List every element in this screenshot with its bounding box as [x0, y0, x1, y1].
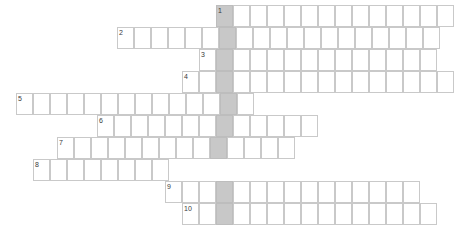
crossword-cell[interactable]	[250, 71, 267, 93]
crossword-cell[interactable]	[253, 27, 270, 49]
crossword-cell[interactable]	[152, 159, 169, 181]
crossword-cell[interactable]	[182, 181, 199, 203]
crossword-cell[interactable]	[91, 137, 108, 159]
crossword-cell[interactable]	[437, 5, 454, 27]
crossword-cell[interactable]	[318, 5, 335, 27]
crossword-cell[interactable]	[352, 181, 369, 203]
crossword-cell[interactable]	[84, 159, 101, 181]
crossword-cell[interactable]	[182, 115, 199, 137]
crossword-cell[interactable]	[108, 137, 125, 159]
crossword-cell[interactable]	[284, 181, 301, 203]
crossword-cell[interactable]	[203, 93, 220, 115]
crossword-cell[interactable]	[335, 71, 352, 93]
crossword-cell[interactable]	[233, 203, 250, 225]
crossword-cell-highlighted[interactable]	[216, 181, 233, 203]
crossword-cell[interactable]	[33, 159, 50, 181]
crossword-cell[interactable]	[267, 115, 284, 137]
crossword-cell[interactable]	[420, 71, 437, 93]
crossword-cell[interactable]	[182, 203, 199, 225]
crossword-cell[interactable]	[352, 203, 369, 225]
crossword-cell[interactable]	[168, 27, 185, 49]
crossword-cell[interactable]	[352, 71, 369, 93]
crossword-cell[interactable]	[301, 5, 318, 27]
crossword-cell[interactable]	[423, 27, 440, 49]
crossword-cell[interactable]	[97, 115, 114, 137]
crossword-cell[interactable]	[261, 137, 278, 159]
crossword-cell[interactable]	[233, 5, 250, 27]
crossword-cell[interactable]	[284, 203, 301, 225]
crossword-cell[interactable]	[114, 115, 131, 137]
crossword-cell[interactable]	[250, 49, 267, 71]
crossword-cell[interactable]	[135, 93, 152, 115]
crossword-cell[interactable]	[67, 159, 84, 181]
crossword-cell-highlighted[interactable]	[216, 5, 233, 27]
crossword-cell[interactable]	[406, 27, 423, 49]
crossword-cell[interactable]	[50, 93, 67, 115]
crossword-cell[interactable]	[152, 93, 169, 115]
crossword-cell-highlighted[interactable]	[216, 115, 233, 137]
crossword-cell[interactable]	[233, 49, 250, 71]
crossword-cell[interactable]	[338, 27, 355, 49]
crossword-cell[interactable]	[386, 5, 403, 27]
crossword-cell[interactable]	[233, 115, 250, 137]
crossword-cell[interactable]	[420, 203, 437, 225]
crossword-cell[interactable]	[67, 93, 84, 115]
crossword-cell[interactable]	[118, 159, 135, 181]
crossword-cell[interactable]	[278, 137, 295, 159]
crossword-cell[interactable]	[318, 181, 335, 203]
crossword-cell[interactable]	[403, 181, 420, 203]
crossword-cell[interactable]	[125, 137, 142, 159]
crossword-cell[interactable]	[135, 159, 152, 181]
crossword-cell[interactable]	[142, 137, 159, 159]
crossword-cell[interactable]	[199, 71, 216, 93]
crossword-cell[interactable]	[131, 115, 148, 137]
crossword-cell-highlighted[interactable]	[220, 93, 237, 115]
crossword-cell[interactable]	[301, 203, 318, 225]
crossword-cell[interactable]	[284, 49, 301, 71]
crossword-cell[interactable]	[301, 181, 318, 203]
crossword-cell[interactable]	[270, 27, 287, 49]
crossword-cell[interactable]	[352, 5, 369, 27]
crossword-cell[interactable]	[148, 115, 165, 137]
crossword-cell[interactable]	[244, 137, 261, 159]
crossword-cell[interactable]	[301, 115, 318, 137]
crossword-cell[interactable]	[165, 115, 182, 137]
crossword-cell[interactable]	[386, 181, 403, 203]
crossword-cell[interactable]	[169, 93, 186, 115]
crossword-cell[interactable]	[403, 49, 420, 71]
crossword-cell[interactable]	[199, 49, 216, 71]
crossword-cell[interactable]	[420, 5, 437, 27]
crossword-cell[interactable]	[74, 137, 91, 159]
crossword-cell[interactable]	[386, 203, 403, 225]
crossword-cell[interactable]	[134, 27, 151, 49]
crossword-cell[interactable]	[267, 71, 284, 93]
crossword-cell[interactable]	[403, 5, 420, 27]
crossword-cell[interactable]	[227, 137, 244, 159]
crossword-cell[interactable]	[321, 27, 338, 49]
crossword-cell[interactable]	[117, 27, 134, 49]
crossword-cell[interactable]	[250, 5, 267, 27]
crossword-cell[interactable]	[335, 49, 352, 71]
crossword-cell[interactable]	[57, 137, 74, 159]
crossword-cell[interactable]	[386, 71, 403, 93]
crossword-cell[interactable]	[50, 159, 67, 181]
crossword-cell[interactable]	[186, 93, 203, 115]
crossword-cell[interactable]	[176, 137, 193, 159]
crossword-cell[interactable]	[199, 203, 216, 225]
crossword-cell-highlighted[interactable]	[210, 137, 227, 159]
crossword-cell[interactable]	[389, 27, 406, 49]
crossword-cell[interactable]	[318, 203, 335, 225]
crossword-cell[interactable]	[185, 27, 202, 49]
crossword-cell[interactable]	[301, 49, 318, 71]
crossword-cell[interactable]	[335, 203, 352, 225]
crossword-cell[interactable]	[301, 71, 318, 93]
crossword-cell[interactable]	[318, 49, 335, 71]
crossword-cell[interactable]	[420, 49, 437, 71]
crossword-cell[interactable]	[287, 27, 304, 49]
crossword-cell[interactable]	[233, 181, 250, 203]
crossword-cell[interactable]	[267, 181, 284, 203]
crossword-cell[interactable]	[403, 203, 420, 225]
crossword-cell[interactable]	[335, 181, 352, 203]
crossword-cell[interactable]	[267, 49, 284, 71]
crossword-cell[interactable]	[118, 93, 135, 115]
